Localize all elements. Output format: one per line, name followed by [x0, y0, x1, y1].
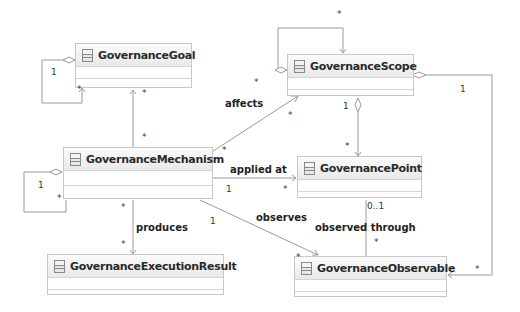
class-name: GovernanceObservable [317, 262, 455, 275]
class-name: GovernancePoint [320, 162, 422, 175]
multiplicity-mechanism-self-one: 1 [38, 180, 44, 190]
multiplicity-scope-self-top: * [337, 9, 342, 19]
attributes-compartment [76, 67, 191, 79]
multiplicity-applied-at-many: * [283, 184, 288, 194]
class-icon [294, 60, 305, 73]
operations-compartment [298, 192, 421, 201]
operations-compartment [64, 186, 212, 200]
multiplicity-affects-mechanism: * [222, 145, 227, 155]
class-governance-point[interactable]: GovernancePoint [297, 156, 422, 198]
class-icon [70, 153, 81, 166]
multiplicity-goal-self-one: 1 [51, 67, 57, 77]
multiplicity-scope-observable-many: * [475, 264, 480, 274]
attributes-compartment [64, 171, 212, 186]
multiplicity-goal-mechanism-top: * [142, 88, 147, 98]
multiplicity-goal-self-many: * [77, 84, 82, 94]
multiplicity-scope-point-one: 1 [343, 101, 349, 111]
class-icon [304, 162, 315, 175]
association-label-observed-through: observed through [315, 222, 416, 233]
class-name: GovernanceScope [310, 60, 417, 73]
class-name: GovernanceGoal [98, 49, 195, 62]
operations-compartment [295, 292, 446, 301]
multiplicity-produces-top: * [121, 202, 126, 212]
class-icon [301, 262, 312, 275]
association-label-produces: produces [136, 222, 188, 233]
association-label-observes: observes [256, 212, 307, 223]
association-label-applied-at: applied at [230, 164, 287, 175]
attributes-compartment [48, 278, 223, 290]
attributes-compartment [298, 180, 421, 192]
class-governance-scope[interactable]: GovernanceScope [287, 54, 414, 96]
multiplicity-scope-observable-one: 1 [460, 84, 466, 94]
operations-compartment [48, 290, 223, 299]
multiplicity-observed-through-zero-one: 0..1 [367, 201, 384, 211]
operations-compartment [76, 79, 191, 88]
operations-compartment [288, 90, 413, 99]
multiplicity-scope-self-left: * [254, 77, 259, 87]
class-governance-mechanism[interactable]: GovernanceMechanism [63, 147, 213, 199]
multiplicity-mechanism-self-many: * [57, 193, 62, 203]
multiplicity-observed-through-many: * [374, 237, 379, 247]
multiplicity-observes-one: 1 [210, 216, 216, 226]
multiplicity-observes-many: * [296, 252, 301, 262]
class-governance-execution-result[interactable]: GovernanceExecutionResult [47, 254, 224, 295]
multiplicity-produces-bottom: * [121, 239, 126, 249]
class-governance-goal[interactable]: GovernanceGoal [75, 43, 192, 88]
class-icon [54, 260, 65, 273]
class-name: GovernanceMechanism [86, 153, 224, 166]
association-label-affects: affects [225, 98, 263, 109]
attributes-compartment [288, 78, 413, 90]
multiplicity-goal-mechanism-bottom: * [142, 132, 147, 142]
class-governance-observable[interactable]: GovernanceObservable [294, 256, 447, 297]
attributes-compartment [295, 280, 446, 292]
class-name: GovernanceExecutionResult [70, 260, 236, 273]
multiplicity-affects-scope: * [288, 110, 293, 120]
multiplicity-scope-point-many: * [345, 141, 350, 151]
class-icon [82, 49, 93, 62]
multiplicity-applied-at-one: 1 [226, 184, 232, 194]
